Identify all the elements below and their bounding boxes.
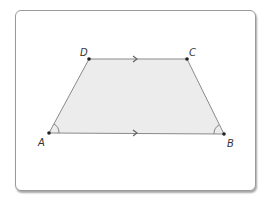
vertex-label-b: B (227, 138, 234, 149)
vertex-point-b (222, 132, 226, 136)
vertex-point-d (87, 57, 91, 61)
vertex-point-a (47, 131, 51, 135)
vertex-label-a: A (37, 137, 45, 148)
trapezoid-abcd (49, 59, 224, 134)
vertex-label-d: D (80, 47, 88, 58)
vertex-label-c: C (189, 47, 196, 58)
trapezoid-diagram: A B C D (0, 0, 265, 206)
